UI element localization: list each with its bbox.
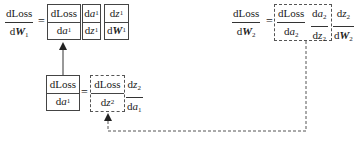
arrowhead-icon [59, 42, 67, 50]
solid-arrow-middle-to-top [59, 42, 67, 75]
arrowhead-icon [104, 113, 112, 121]
dashed-arrow-right-to-middle [104, 41, 306, 131]
connector-arrows [0, 0, 360, 149]
